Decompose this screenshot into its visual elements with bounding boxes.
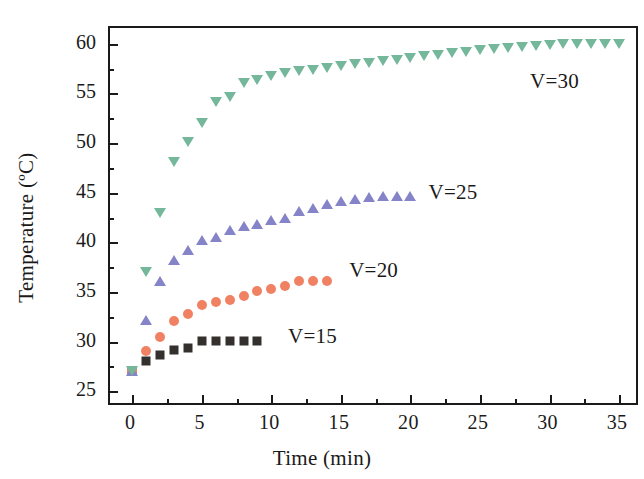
x-axis-tick-minor (376, 399, 378, 404)
y-axis-tick-minor (109, 267, 114, 269)
y-tick-label: 30 (96, 328, 116, 351)
series-label-v-20: V=20 (349, 258, 398, 283)
x-tick-label: 5 (195, 411, 205, 434)
data-point-v-20 (225, 295, 235, 305)
data-point-v-25 (196, 235, 208, 245)
x-axis-tick-major (202, 395, 204, 404)
data-point-v-15 (142, 357, 151, 366)
data-point-v-15 (239, 336, 248, 345)
data-point-v-20 (155, 332, 165, 342)
x-tick-label: 20 (398, 411, 419, 434)
data-point-v-30 (307, 65, 319, 75)
data-point-v-20 (280, 281, 290, 291)
x-tick-label: 30 (537, 411, 558, 434)
data-point-v-20 (252, 286, 262, 296)
data-point-v-25 (265, 215, 277, 225)
data-point-v-25 (210, 232, 222, 242)
data-point-v-30 (516, 42, 528, 52)
data-point-v-20 (294, 276, 304, 286)
y-axis-tick-minor (109, 317, 114, 319)
series-label-v-30: V=30 (530, 69, 579, 94)
data-point-v-25 (238, 221, 250, 231)
y-axis-title: Temperature (ºC) (14, 98, 39, 358)
data-point-v-15 (211, 336, 220, 345)
data-point-v-25 (182, 245, 194, 255)
x-axis-tick-major (132, 395, 134, 404)
data-point-v-30 (432, 50, 444, 60)
data-point-v-20 (239, 291, 249, 301)
data-point-v-30 (321, 63, 333, 73)
data-point-v-30 (210, 97, 222, 107)
data-point-v-30 (196, 118, 208, 128)
data-point-v-30 (599, 39, 611, 49)
data-point-v-30 (293, 66, 305, 76)
x-axis-tick-minor (584, 399, 586, 404)
y-tick-label: 55 (96, 80, 116, 103)
data-point-v-20 (322, 276, 332, 286)
x-axis-tick-minor (167, 399, 169, 404)
data-point-v-30 (279, 68, 291, 78)
data-point-v-30 (530, 41, 542, 51)
data-point-v-30 (404, 53, 416, 63)
y-tick-label: 45 (96, 179, 116, 202)
y-tick-label: 25 (96, 378, 116, 401)
data-point-v-30 (571, 39, 583, 49)
data-point-v-30 (251, 75, 263, 85)
data-point-v-25 (154, 276, 166, 286)
data-point-v-20 (141, 346, 151, 356)
data-point-v-15 (225, 336, 234, 345)
data-point-v-25 (391, 191, 403, 201)
data-point-v-25 (321, 199, 333, 209)
data-point-v-15 (169, 346, 178, 355)
y-axis-tick-minor (109, 118, 114, 120)
data-point-v-20 (183, 309, 193, 319)
data-point-v-30 (265, 71, 277, 81)
x-axis-tick-minor (237, 399, 239, 404)
data-point-v-25 (363, 192, 375, 202)
y-axis-tick-minor (109, 168, 114, 170)
x-axis-tick-minor (515, 399, 517, 404)
x-tick-label: 25 (468, 411, 489, 434)
data-point-v-20 (266, 284, 276, 294)
data-point-v-30 (585, 39, 597, 49)
data-point-v-30 (349, 59, 361, 69)
data-point-v-30 (335, 61, 347, 71)
x-tick-label: 35 (607, 411, 628, 434)
x-axis-tick-major (410, 395, 412, 404)
series-label-v-25: V=25 (429, 180, 478, 205)
data-point-v-30 (613, 39, 625, 49)
data-point-v-30 (126, 366, 138, 376)
data-point-v-30 (168, 157, 180, 167)
data-point-v-25 (349, 194, 361, 204)
x-tick-label: 15 (329, 411, 350, 434)
series-label-v-15: V=15 (288, 324, 337, 349)
y-tick-label: 35 (96, 278, 116, 301)
data-point-v-25 (140, 315, 152, 325)
data-point-v-30 (460, 47, 472, 57)
data-point-v-20 (197, 300, 207, 310)
data-point-v-30 (363, 58, 375, 68)
data-point-v-25 (404, 191, 416, 201)
data-point-v-25 (168, 255, 180, 265)
data-point-v-30 (544, 40, 556, 50)
data-point-v-15 (156, 351, 165, 360)
x-axis-tick-major (271, 395, 273, 404)
data-point-v-30 (238, 78, 250, 88)
data-point-v-30 (557, 39, 569, 49)
data-point-v-15 (183, 344, 192, 353)
data-point-v-20 (211, 297, 221, 307)
y-tick-label: 60 (96, 30, 116, 53)
x-axis-tick-major (341, 395, 343, 404)
y-tick-label: 40 (96, 229, 116, 252)
data-point-v-30 (474, 45, 486, 55)
data-point-v-15 (253, 336, 262, 345)
x-tick-label: 0 (125, 411, 135, 434)
x-axis-tick-major (480, 395, 482, 404)
data-point-v-30 (224, 92, 236, 102)
data-point-v-30 (154, 208, 166, 218)
data-point-v-20 (169, 316, 179, 326)
data-point-v-30 (391, 55, 403, 65)
x-axis-title: Time (min) (0, 446, 644, 471)
data-point-v-20 (308, 276, 318, 286)
data-point-v-25 (251, 219, 263, 229)
